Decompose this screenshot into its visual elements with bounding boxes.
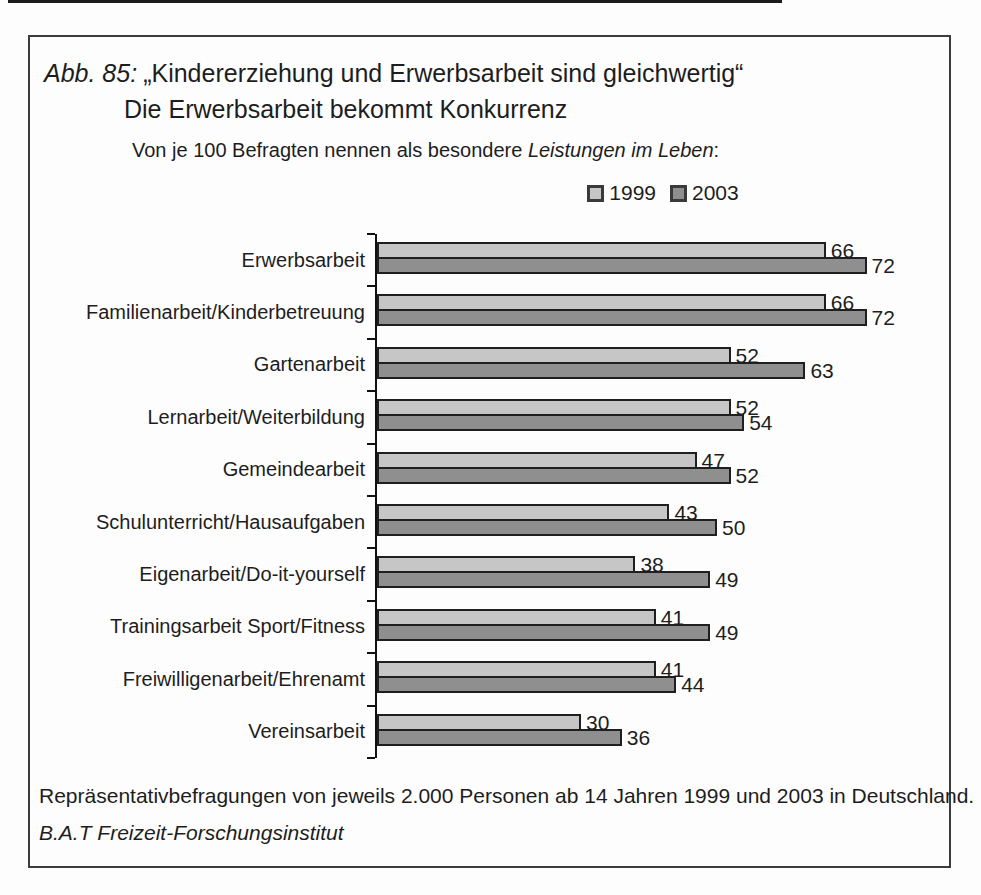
chart-row: Schulunterricht/Hausaufgaben4350 bbox=[30, 496, 951, 548]
bar-2003 bbox=[377, 309, 867, 326]
value-label-2003: 72 bbox=[872, 257, 895, 274]
subtitle-italic-part: Leistungen im Leben bbox=[528, 139, 714, 161]
bar-line-2003: 50 bbox=[377, 519, 951, 536]
bar-group: 6672 bbox=[375, 286, 951, 338]
bar-2003 bbox=[377, 519, 717, 536]
bar-line-2003: 52 bbox=[377, 467, 951, 484]
chart-row: Gartenarbeit5263 bbox=[30, 339, 951, 391]
bar-2003 bbox=[377, 676, 676, 693]
category-label: Gemeindearbeit bbox=[30, 444, 375, 496]
figure-title: Abb. 85:„Kindererziehung und Erwerbsarbe… bbox=[44, 55, 743, 127]
bar-group: 4144 bbox=[375, 653, 951, 705]
legend-swatch-1999 bbox=[587, 185, 604, 202]
value-label-2003: 49 bbox=[715, 571, 738, 588]
bar-group: 6672 bbox=[375, 234, 951, 286]
bar-group: 5254 bbox=[375, 391, 951, 443]
value-label-2003: 44 bbox=[681, 676, 704, 693]
category-label: Gartenarbeit bbox=[30, 339, 375, 391]
category-label: Vereinsarbeit bbox=[30, 706, 375, 758]
figure-frame: Abb. 85:„Kindererziehung und Erwerbsarbe… bbox=[28, 35, 951, 868]
bar-2003 bbox=[377, 729, 622, 746]
horizontal-bar-chart: Erwerbsarbeit6672Familienarbeit/Kinderbe… bbox=[30, 234, 951, 758]
bar-2003 bbox=[377, 467, 731, 484]
value-label-2003: 54 bbox=[749, 414, 772, 431]
value-label-2003: 72 bbox=[872, 309, 895, 326]
bar-line-2003: 72 bbox=[377, 257, 951, 274]
scan-artifact-line bbox=[8, 0, 782, 3]
bar-2003 bbox=[377, 624, 710, 641]
subtitle: Von je 100 Befragten nennen als besonder… bbox=[132, 139, 719, 162]
bar-group: 3849 bbox=[375, 548, 951, 600]
bar-2003 bbox=[377, 257, 867, 274]
bar-group: 4149 bbox=[375, 601, 951, 653]
subtitle-prefix: Von je 100 Befragten nennen als besonder… bbox=[132, 139, 528, 161]
bar-group: 3036 bbox=[375, 706, 951, 758]
bar-2003 bbox=[377, 362, 805, 379]
figure-number-label: Abb. 85: bbox=[44, 59, 137, 87]
bar-line-2003: 54 bbox=[377, 414, 951, 431]
bar-line-2003: 49 bbox=[377, 624, 951, 641]
chart-row: Freiwilligenarbeit/Ehrenamt4144 bbox=[30, 653, 951, 705]
legend-item-1999: 1999 bbox=[587, 181, 656, 205]
chart-row: Familienarbeit/Kinderbetreuung6672 bbox=[30, 286, 951, 338]
bar-line-2003: 49 bbox=[377, 571, 951, 588]
footnote-source-line: Repräsentativbefragungen von jeweils 2.0… bbox=[39, 777, 974, 814]
bar-2003 bbox=[377, 571, 710, 588]
subtitle-suffix: : bbox=[714, 139, 720, 161]
legend-swatch-2003 bbox=[670, 185, 687, 202]
value-label-2003: 49 bbox=[715, 624, 738, 641]
chart-row: Lernarbeit/Weiterbildung5254 bbox=[30, 391, 951, 443]
chart-row: Trainingsarbeit Sport/Fitness4149 bbox=[30, 601, 951, 653]
footnote-institute-line: B.A.T Freizeit-Forschungsinstitut bbox=[39, 814, 974, 851]
value-label-2003: 63 bbox=[810, 362, 833, 379]
chart-row: Gemeindearbeit4752 bbox=[30, 444, 951, 496]
value-label-2003: 52 bbox=[736, 467, 759, 484]
value-label-2003: 36 bbox=[627, 729, 650, 746]
legend-label-1999: 1999 bbox=[609, 181, 656, 205]
bar-line-2003: 36 bbox=[377, 729, 951, 746]
title-line2: Die Erwerbsarbeit bekommt Konkurrenz bbox=[124, 91, 743, 127]
category-label: Freiwilligenarbeit/Ehrenamt bbox=[30, 653, 375, 705]
chart-legend: 19992003 bbox=[375, 181, 951, 205]
bar-line-2003: 44 bbox=[377, 676, 951, 693]
bar-line-2003: 63 bbox=[377, 362, 951, 379]
category-label: Familienarbeit/Kinderbetreuung bbox=[30, 286, 375, 338]
category-label: Schulunterricht/Hausaufgaben bbox=[30, 496, 375, 548]
category-label: Trainingsarbeit Sport/Fitness bbox=[30, 601, 375, 653]
legend-label-2003: 2003 bbox=[692, 181, 739, 205]
bar-group: 5263 bbox=[375, 339, 951, 391]
chart-row: Eigenarbeit/Do-it-yourself3849 bbox=[30, 548, 951, 600]
value-label-2003: 50 bbox=[722, 519, 745, 536]
bar-line-2003: 72 bbox=[377, 309, 951, 326]
category-label: Eigenarbeit/Do-it-yourself bbox=[30, 548, 375, 600]
bar-group: 4752 bbox=[375, 444, 951, 496]
title-quote-text: „Kindererziehung und Erwerbsarbeit sind … bbox=[143, 59, 743, 87]
chart-row: Erwerbsarbeit6672 bbox=[30, 234, 951, 286]
legend-item-2003: 2003 bbox=[670, 181, 739, 205]
category-label: Lernarbeit/Weiterbildung bbox=[30, 391, 375, 443]
footnote: Repräsentativbefragungen von jeweils 2.0… bbox=[39, 777, 974, 851]
bar-2003 bbox=[377, 414, 744, 431]
bar-group: 4350 bbox=[375, 496, 951, 548]
category-label: Erwerbsarbeit bbox=[30, 234, 375, 286]
chart-row: Vereinsarbeit3036 bbox=[30, 706, 951, 758]
